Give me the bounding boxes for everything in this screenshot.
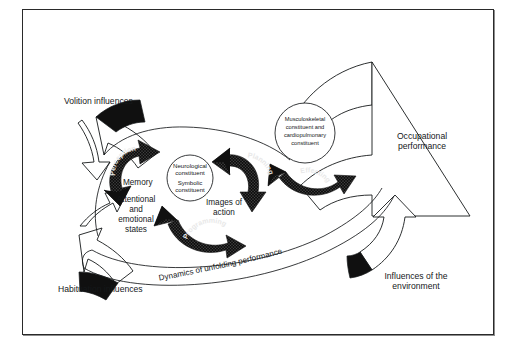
memory-label: Memory [123, 178, 153, 187]
musculoskeletal-label-line2: constituent and [273, 124, 337, 130]
diagram-canvas: Dynamics of unfolding performance Percep… [0, 0, 514, 350]
images-of-action-label-line2: action [196, 208, 252, 217]
volition-influences-label: Volition influences [64, 97, 133, 107]
attentional-label-line4: states [106, 225, 166, 234]
symbolic-label-line2: constituent [162, 187, 218, 194]
habituation-influences-label: Habituation influences [58, 285, 143, 295]
environment-label-line2: environment [358, 282, 474, 292]
figure-root: Dynamics of unfolding performance Percep… [0, 0, 514, 350]
dynamics-arc-label: Dynamics of unfolding performance [158, 247, 284, 283]
occupational-performance-label-line2: performance [376, 142, 468, 152]
images-of-action-label-line1: Images of [196, 198, 252, 207]
attentional-label-line2: and [106, 205, 166, 214]
musculoskeletal-label-line4: constituent [273, 140, 337, 146]
musculoskeletal-label-line3: cardiopulmonary [273, 132, 337, 138]
attentional-label-line3: emotional [106, 215, 166, 224]
musculoskeletal-label-line1: Musculoskeletal [273, 116, 337, 122]
attentional-label-line1: Attentional [106, 195, 166, 204]
neurological-label-line2: constituent [162, 170, 218, 177]
programming-arrow-label: Programming [182, 217, 228, 240]
